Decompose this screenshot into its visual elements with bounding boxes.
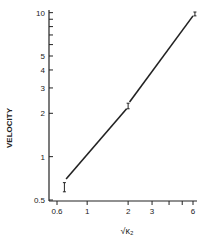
x-tick-label: 6 xyxy=(191,207,196,216)
x-tick-label: 2 xyxy=(126,207,131,216)
y-tick-label: 0.5 xyxy=(34,196,46,205)
y-tick-label: 5 xyxy=(41,52,46,61)
velocity-chart: 0.51234510 0.61236 VELOCITY √κ₂ xyxy=(0,0,205,243)
y-tick-label: 4 xyxy=(41,66,46,75)
y-tick-label: 3 xyxy=(41,84,46,93)
fit-line-segment xyxy=(130,16,193,102)
x-axis-label: √κ₂ xyxy=(121,226,134,236)
y-axis-ticks: 0.51234510 xyxy=(34,9,53,205)
y-tick-label: 10 xyxy=(36,9,45,18)
x-tick-label: 1 xyxy=(85,207,90,216)
y-tick-label: 2 xyxy=(41,109,46,118)
y-axis-label: VELOCITY xyxy=(5,107,14,148)
y-tick-label: 1 xyxy=(41,153,46,162)
error-bar xyxy=(63,183,66,192)
x-tick-label: 0.6 xyxy=(51,207,63,216)
fit-line-segment xyxy=(66,109,127,179)
x-axis-ticks: 0.61236 xyxy=(51,201,195,216)
x-tick-label: 3 xyxy=(150,207,155,216)
error-bar xyxy=(127,103,130,109)
error-bar xyxy=(193,12,196,16)
fit-line xyxy=(66,16,193,179)
